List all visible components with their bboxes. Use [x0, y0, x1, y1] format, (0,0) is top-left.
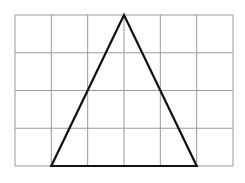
grid-triangle-diagram — [0, 0, 245, 183]
grid — [15, 15, 233, 166]
